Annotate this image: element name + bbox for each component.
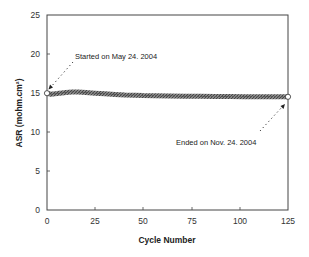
y-tick-label: 20	[31, 49, 41, 59]
y-tick-label: 25	[31, 10, 41, 20]
start-annotation: Started on May 24. 2004	[49, 52, 158, 90]
x-tick-label: 100	[233, 216, 247, 226]
y-tick-label: 15	[31, 88, 41, 98]
end-annotation-text: Ended on Nov. 24. 2004	[176, 138, 256, 147]
start-annotation-text: Started on May 24. 2004	[75, 52, 157, 61]
x-tick-label: 75	[187, 216, 197, 226]
start-marker	[44, 91, 49, 96]
x-tick-label: 50	[138, 216, 148, 226]
x-tick-label: 0	[45, 216, 50, 226]
y-tick-label: 5	[35, 166, 40, 176]
x-axis-title: Cycle Number	[138, 235, 196, 245]
x-tick-label: 125	[281, 216, 295, 226]
plot-frame	[47, 15, 288, 210]
asr-chart: 0 5 10 15 20 25 0 25 50 75 100 125 Cycle…	[0, 0, 309, 257]
arrow-head-icon	[49, 85, 54, 90]
end-marker	[285, 94, 290, 99]
y-tick-label: 10	[31, 127, 41, 137]
y-axis-title: ASR (mohm.cm²)	[14, 78, 24, 147]
asr-series	[44, 91, 290, 100]
arrow-head-icon	[281, 104, 286, 109]
end-annotation: Ended on Nov. 24. 2004	[176, 104, 285, 147]
x-tick-label: 25	[90, 216, 100, 226]
y-tick-label: 0	[35, 205, 40, 215]
